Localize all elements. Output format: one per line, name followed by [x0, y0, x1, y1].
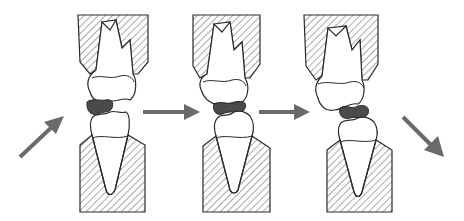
- diagram-canvas: [0, 0, 464, 221]
- arrow-2-3-icon: [259, 104, 310, 120]
- stage-3: [304, 15, 392, 212]
- stage-1: [78, 15, 148, 212]
- stage-2: [193, 15, 270, 212]
- arrow-1-2-icon: [143, 104, 200, 120]
- arrow-in-icon: [20, 116, 64, 157]
- tooth-bolus-diagram: [0, 0, 464, 221]
- arrow-out-icon: [403, 117, 444, 157]
